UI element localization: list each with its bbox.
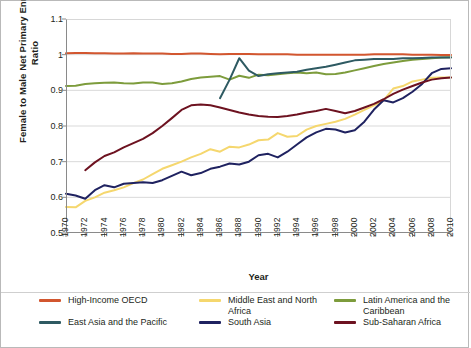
legend-item[interactable]: South Asia xyxy=(199,317,336,328)
x-tick-label: 1974 xyxy=(99,217,109,237)
x-tick-label: 2004 xyxy=(387,217,397,237)
legend-item-label: South Asia xyxy=(228,317,336,328)
y-tick-label: 0.9 xyxy=(35,85,63,95)
legend-item[interactable]: East Asia and the Pacific xyxy=(39,317,176,328)
legend-color-swatch xyxy=(199,321,221,324)
x-tick-label: 1992 xyxy=(272,217,282,237)
legend-item[interactable]: Middle East and North Africa xyxy=(199,295,336,316)
x-tick-label: 1978 xyxy=(137,217,147,237)
x-tick-label: 2010 xyxy=(445,217,455,237)
legend-color-swatch xyxy=(199,299,221,302)
series-line xyxy=(85,77,451,170)
series-line xyxy=(66,57,451,86)
x-tick-label: 2002 xyxy=(368,217,378,237)
x-axis-title: Year xyxy=(66,271,451,282)
legend-color-swatch xyxy=(334,321,356,324)
legend-item[interactable]: Sub-Saharan Africa xyxy=(334,317,471,328)
x-tick-label: 1970 xyxy=(60,217,70,237)
x-tick-label: 1986 xyxy=(214,217,224,237)
x-tick-label: 2006 xyxy=(407,217,417,237)
y-tick-label: 1.1 xyxy=(35,14,63,24)
y-tick-label: 0.5 xyxy=(35,228,63,238)
y-tick-label: 0.6 xyxy=(35,192,63,202)
x-tick-label: 1984 xyxy=(195,217,205,237)
x-tick-label: 1990 xyxy=(253,217,263,237)
legend-color-swatch xyxy=(39,321,61,324)
x-tick-label: 1994 xyxy=(291,217,301,237)
x-tick-label: 1976 xyxy=(118,217,128,237)
x-tick-label: 2008 xyxy=(426,217,436,237)
x-tick-label: 1972 xyxy=(79,217,89,237)
series-line xyxy=(220,58,451,99)
legend-item-label: Latin America and the Caribbean xyxy=(363,295,471,316)
series-line xyxy=(66,77,451,207)
legend-item[interactable]: Latin America and the Caribbean xyxy=(334,295,471,316)
x-tick-label: 1996 xyxy=(310,217,320,237)
legend-item-label: East Asia and the Pacific xyxy=(68,317,176,328)
x-tick-label: 1998 xyxy=(330,217,340,237)
legend-item-label: Middle East and North Africa xyxy=(228,295,336,316)
chart-plot-region: Female to Male Net Primary Enrollment Ra… xyxy=(1,1,470,289)
legend-item-label: Sub-Saharan Africa xyxy=(363,317,471,328)
legend-color-swatch xyxy=(39,299,61,302)
series-lines xyxy=(66,19,451,233)
y-tick-label: 1 xyxy=(35,50,63,60)
legend-item[interactable]: High-Income OECD xyxy=(39,295,176,306)
y-tick-label: 0.7 xyxy=(35,157,63,167)
legend-color-swatch xyxy=(334,299,356,302)
y-tick-label: 0.8 xyxy=(35,121,63,131)
x-tick-label: 1980 xyxy=(156,217,166,237)
x-tick-label: 2000 xyxy=(349,217,359,237)
x-tick-label: 1988 xyxy=(233,217,243,237)
x-tick-label: 1982 xyxy=(176,217,186,237)
chart-legend: High-Income OECDMiddle East and North Af… xyxy=(1,292,470,348)
y-axis-ticks: 1.110.90.80.70.60.5 xyxy=(31,1,63,289)
plot-area xyxy=(66,19,451,233)
legend-item-label: High-Income OECD xyxy=(68,295,176,306)
